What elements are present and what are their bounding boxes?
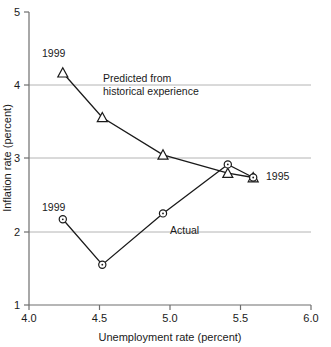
- actual-annotation-label: Actual: [170, 224, 199, 236]
- predicted-start-year-label: 1999: [42, 47, 66, 59]
- x-tick-label-4-0: 4.0: [21, 312, 36, 324]
- chart-container: 5 4 3 2 1 4.0 4.5 5.0 5.5 6.0 Unemployme…: [0, 0, 331, 347]
- end-year-label: 1995: [266, 170, 290, 182]
- predicted-annotation-line-2: historical experience: [103, 85, 199, 97]
- x-tick-label-5-0: 5.0: [162, 312, 177, 324]
- actual-point-dot-4: [227, 164, 229, 166]
- y-axis-title: Inflation rate (percent): [1, 104, 13, 212]
- x-tick-label-6-0: 6.0: [303, 312, 318, 324]
- y-tick-label-5: 5: [14, 6, 20, 18]
- actual-start-year-label: 1999: [42, 201, 66, 213]
- actual-point-dot-1995: [252, 177, 254, 179]
- x-tick-label-5-5: 5.5: [233, 312, 248, 324]
- actual-point-dot-2: [101, 264, 103, 266]
- x-tick-label-4-5: 4.5: [92, 312, 107, 324]
- y-tick-label-1: 1: [14, 299, 20, 311]
- predicted-annotation-line-1: Predicted from: [103, 72, 172, 84]
- inflation-unemployment-scatter-line-chart: 5 4 3 2 1 4.0 4.5 5.0 5.5 6.0 Unemployme…: [0, 0, 331, 347]
- actual-point-dot-3: [162, 213, 164, 215]
- y-tick-label-4: 4: [14, 79, 20, 91]
- actual-point-dot-1999: [62, 218, 64, 220]
- x-axis-title: Unemployment rate (percent): [98, 331, 241, 343]
- y-tick-label-3: 3: [14, 152, 20, 164]
- y-tick-label-2: 2: [14, 226, 20, 238]
